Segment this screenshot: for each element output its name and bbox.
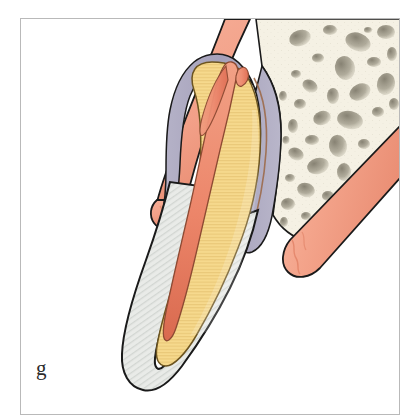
anatomy-illustration [0,0,415,415]
panel-label: g [36,358,47,379]
figure-panel: g [0,0,415,415]
